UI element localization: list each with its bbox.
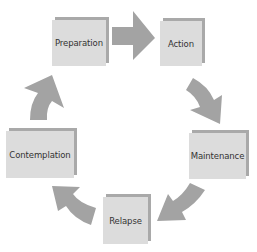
stage-label-preparation: Preparation bbox=[55, 38, 103, 48]
arrow-contemplation-to-preparation bbox=[24, 75, 64, 120]
box-face: Maintenance bbox=[189, 133, 246, 179]
box-face: Preparation bbox=[52, 20, 106, 66]
arrow-action-to-maintenance bbox=[186, 78, 222, 124]
box-face: Contemplation bbox=[6, 131, 74, 178]
arrow-maintenance-to-relapse bbox=[157, 183, 205, 221]
stage-box-action: Action bbox=[160, 21, 202, 66]
cycle-diagram: Preparation Action Maintenance Relapse C… bbox=[0, 0, 257, 252]
stage-label-contemplation: Contemplation bbox=[9, 150, 70, 160]
stage-label-maintenance: Maintenance bbox=[191, 151, 245, 161]
stage-box-relapse: Relapse bbox=[103, 197, 148, 244]
stage-label-relapse: Relapse bbox=[109, 216, 142, 226]
arrow-relapse-to-contemplation bbox=[52, 186, 96, 225]
stage-box-preparation: Preparation bbox=[52, 20, 106, 66]
arrow-preparation-to-action bbox=[112, 11, 155, 60]
box-face: Action bbox=[160, 21, 202, 66]
stage-box-contemplation: Contemplation bbox=[6, 131, 74, 178]
box-face: Relapse bbox=[103, 197, 148, 244]
stage-label-action: Action bbox=[168, 39, 194, 49]
stage-box-maintenance: Maintenance bbox=[189, 133, 246, 179]
